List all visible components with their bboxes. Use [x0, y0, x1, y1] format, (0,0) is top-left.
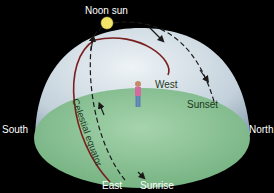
sunrise-label: Sunrise — [140, 181, 174, 191]
noon-sun-label: Noon sun — [85, 6, 128, 16]
east-label: East — [102, 181, 122, 191]
south-label: South — [2, 125, 28, 135]
sun-icon — [101, 17, 113, 29]
diagram-canvas: Celestial equator — [0, 0, 274, 193]
sunset-label: Sunset — [187, 100, 218, 110]
west-label: West — [155, 80, 178, 90]
north-label: North — [249, 125, 273, 135]
sun-path-diagram: Celestial equator Noon sun West Sunset S… — [0, 0, 274, 193]
